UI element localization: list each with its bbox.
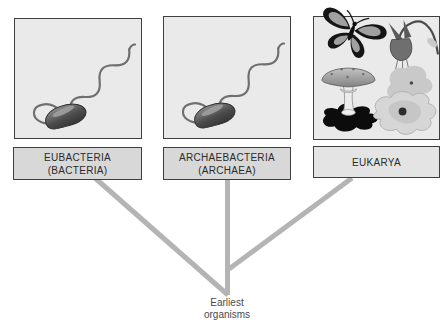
eubacteria-image-panel <box>14 18 142 139</box>
bacterium-flagellum-icon <box>164 17 290 138</box>
label-line: (ARCHAEA) <box>198 164 256 177</box>
bacterium-flagellum-icon <box>15 19 141 138</box>
eukarya-image-panel <box>313 16 440 140</box>
label-line: EUBACTERIA <box>44 151 111 164</box>
columbine-flower-icon <box>387 20 439 103</box>
amoeba-icon <box>374 92 436 135</box>
eukarya-organisms-illustration <box>314 17 439 139</box>
branch-line-eubacteria <box>95 178 228 295</box>
root-label-line: organisms <box>167 309 287 321</box>
label-line: ARCHAEBACTERIA <box>179 151 275 164</box>
eubacteria-label: EUBACTERIA (BACTERIA) <box>13 147 142 180</box>
earliest-organisms-label: Earliest organisms <box>167 297 287 321</box>
archaebacteria-image-panel <box>163 16 291 139</box>
label-line: EUKARYA <box>352 156 401 169</box>
label-line: (BACTERIA) <box>48 164 108 177</box>
three-domains-diagram: EUBACTERIA (BACTERIA) ARCHAEBACTERIA (AR… <box>0 0 447 333</box>
branch-line-eukarya <box>229 178 352 269</box>
eukarya-label: EUKARYA <box>313 146 440 178</box>
mushroom-icon <box>322 68 378 132</box>
archaebacteria-label: ARCHAEBACTERIA (ARCHAEA) <box>163 147 291 180</box>
root-label-line: Earliest <box>167 297 287 309</box>
